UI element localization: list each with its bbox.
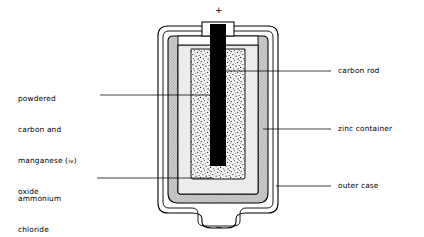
label-line: powdered bbox=[18, 94, 77, 104]
positive-terminal-sign: + bbox=[215, 6, 223, 15]
label-line: ammonium bbox=[18, 194, 61, 204]
dry-cell-diagram: + − powdered carbon and manganese (iv) o… bbox=[0, 0, 424, 237]
label-line-tail: ) bbox=[74, 156, 77, 165]
label-line: manganese (iv) bbox=[18, 156, 77, 166]
label-line: chloride bbox=[18, 225, 61, 235]
label-ammonium-chloride-paste: ammonium chloride paste bbox=[18, 173, 61, 237]
label-zinc-container: zinc container bbox=[338, 124, 392, 134]
label-line-text: manganese ( bbox=[18, 156, 68, 165]
label-line: carbon and bbox=[18, 125, 77, 135]
label-carbon-rod: carbon rod bbox=[338, 66, 379, 76]
negative-terminal-sign: − bbox=[215, 223, 223, 232]
label-outer-case: outer case bbox=[338, 181, 379, 191]
